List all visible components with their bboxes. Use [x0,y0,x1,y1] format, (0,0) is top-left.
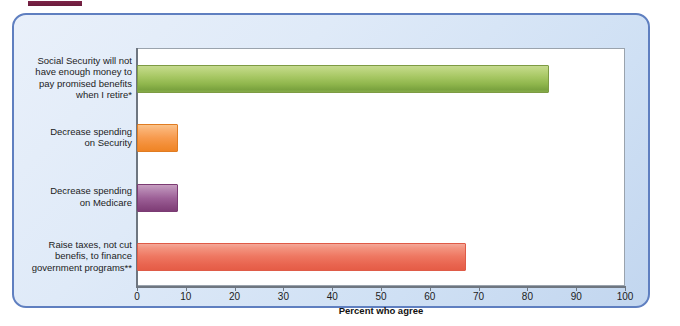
x-axis-title: Percent who agree [137,305,625,316]
x-tick-label: 20 [215,291,255,302]
x-tick-label: 30 [263,291,303,302]
bar-chart: Social Security will not have enough mon… [0,0,680,326]
x-tick-label: 60 [410,291,450,302]
x-tick-label: 40 [312,291,352,302]
category-label: Decrease spending on Medicare [4,185,132,208]
x-tick-label: 50 [361,291,401,302]
x-tick-label: 70 [459,291,499,302]
x-tick-label: 90 [556,291,596,302]
bar [137,65,549,93]
bar [137,243,466,271]
category-label: Decrease spending on Security [4,126,132,149]
x-tick-label: 10 [166,291,206,302]
x-tick-label: 80 [507,291,547,302]
bar [137,124,178,152]
bar [137,184,178,212]
category-label: Social Security will not have enough mon… [4,55,132,101]
x-tick-label: 100 [605,291,645,302]
x-tick-label: 0 [117,291,157,302]
category-label: Raise taxes, not cut benefis, to finance… [4,239,132,274]
